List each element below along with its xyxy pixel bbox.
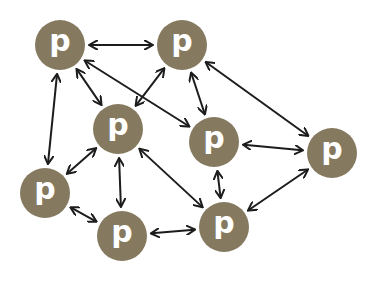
edge-arrow-n5-n8 bbox=[249, 170, 308, 210]
peer-node-label: p bbox=[34, 171, 55, 206]
edge-layer bbox=[48, 45, 308, 233]
edge-arrow-n1-n6 bbox=[48, 75, 57, 163]
peer-node-label: p bbox=[107, 107, 128, 142]
edge-arrow-n3-n6 bbox=[68, 149, 96, 173]
edge-arrow-n7-n8 bbox=[152, 230, 194, 234]
edge-arrow-n2-n3 bbox=[136, 69, 164, 105]
edge-arrow-n3-n8 bbox=[140, 149, 202, 206]
edge-arrow-n6-n7 bbox=[71, 208, 96, 222]
peer-node-label: p bbox=[203, 120, 224, 155]
edge-arrow-n1-n3 bbox=[77, 70, 101, 105]
peer-node-n4: p bbox=[189, 117, 239, 167]
peer-node-n3: p bbox=[93, 104, 143, 154]
peer-node-n8: p bbox=[199, 202, 249, 252]
peer-node-n5: p bbox=[307, 128, 357, 178]
peer-node-label: p bbox=[213, 205, 234, 240]
peer-node-n7: p bbox=[97, 211, 147, 261]
peer-node-label: p bbox=[171, 23, 192, 58]
edge-arrow-n4-n8 bbox=[218, 172, 221, 197]
p2p-network-diagram: pppppppp bbox=[0, 0, 375, 282]
peer-node-label: p bbox=[321, 131, 342, 166]
peer-node-label: p bbox=[49, 23, 70, 58]
edge-arrow-n4-n5 bbox=[244, 145, 302, 150]
peer-node-label: p bbox=[111, 214, 132, 249]
peer-node-n2: p bbox=[157, 20, 207, 70]
peer-node-n6: p bbox=[20, 168, 70, 218]
edge-arrow-n2-n4 bbox=[191, 73, 204, 113]
peer-node-n1: p bbox=[35, 20, 85, 70]
edge-arrow-n3-n7 bbox=[119, 159, 121, 206]
node-layer: pppppppp bbox=[20, 20, 357, 261]
